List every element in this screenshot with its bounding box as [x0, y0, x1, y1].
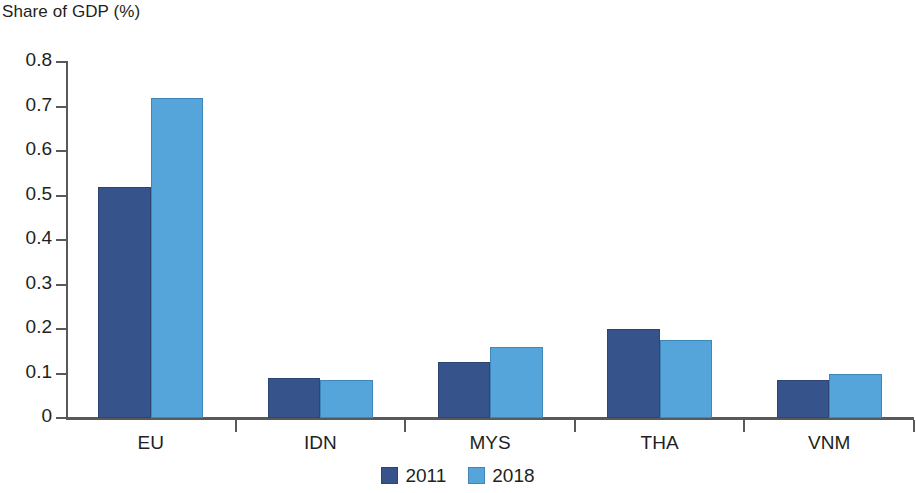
legend-swatch-icon [381, 467, 398, 484]
y-axis-tick-label: 0.2 [0, 316, 52, 338]
x-axis-tick [913, 420, 915, 432]
y-axis-tick-label: 0.1 [0, 361, 52, 383]
chart-title: Share of GDP (%) [2, 2, 140, 22]
bars-layer [66, 62, 914, 418]
y-axis-tick-label: 0.8 [0, 49, 52, 71]
y-axis-tick [56, 106, 66, 108]
x-axis-tick [743, 420, 745, 432]
x-axis-category-label: EU [91, 432, 211, 454]
x-axis-tick [574, 420, 576, 432]
x-axis-category-label: THA [600, 432, 720, 454]
legend-label: 2018 [492, 466, 534, 485]
y-axis-tick [56, 284, 66, 286]
y-axis-tick [56, 150, 66, 152]
bar-chart: Share of GDP (%) 0.80.70.60.50.40.30.20.… [0, 0, 916, 493]
bar-vnm-2018 [829, 374, 882, 419]
bar-tha-2011 [607, 329, 660, 418]
y-axis-tick [56, 195, 66, 197]
y-axis-tick-label: 0.5 [0, 183, 52, 205]
legend-item-2018[interactable]: 2018 [468, 466, 534, 485]
y-axis-tick-label: 0.6 [0, 138, 52, 160]
y-axis-tick [56, 239, 66, 241]
y-axis-tick-label: 0.3 [0, 272, 52, 294]
y-axis-tick [56, 61, 66, 63]
legend-swatch-icon [468, 467, 485, 484]
y-axis-tick [56, 417, 66, 419]
x-axis-category-label: MYS [430, 432, 550, 454]
bar-idn-2018 [320, 380, 373, 418]
bar-idn-2011 [268, 378, 321, 418]
chart-legend: 20112018 [0, 466, 916, 485]
x-axis-category-label: VNM [769, 432, 889, 454]
x-axis-tick [235, 420, 237, 432]
bar-mys-2011 [438, 362, 491, 418]
legend-item-2011[interactable]: 2011 [381, 466, 446, 485]
bar-eu-2011 [98, 187, 151, 418]
bar-eu-2018 [151, 98, 204, 418]
y-axis-tick [56, 328, 66, 330]
legend-label: 2011 [405, 466, 446, 485]
y-axis-tick-label: 0 [0, 405, 52, 427]
x-axis-category-label: IDN [260, 432, 380, 454]
y-axis-tick [56, 373, 66, 375]
bar-tha-2018 [660, 340, 713, 418]
bar-mys-2018 [490, 347, 543, 418]
y-axis-tick-label: 0.7 [0, 94, 52, 116]
y-axis-tick-label: 0.4 [0, 227, 52, 249]
bar-vnm-2011 [777, 380, 830, 418]
x-axis-tick [404, 420, 406, 432]
